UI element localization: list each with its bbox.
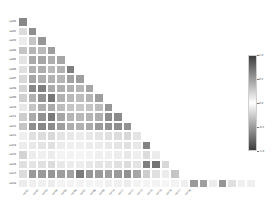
heatmap-row — [18, 84, 189, 94]
heatmap-cell — [151, 150, 161, 160]
heatmap-cell — [104, 179, 114, 189]
x-tick-label: var02 — [30, 189, 39, 198]
heatmap-cell — [28, 150, 38, 160]
heatmap-cell — [66, 65, 76, 75]
x-tick-label: var01 — [20, 189, 29, 198]
x-tick-label: var07 — [77, 189, 86, 198]
heatmap-cell — [170, 169, 180, 179]
heatmap-cell — [123, 122, 133, 132]
heatmap-cell — [85, 169, 95, 179]
heatmap-cell — [56, 84, 66, 94]
heatmap-cell — [151, 169, 161, 179]
heatmap-cell — [66, 141, 76, 151]
heatmap-cell — [123, 150, 133, 160]
heatmap-cell — [142, 179, 152, 189]
correlation-heatmap-figure: var01var02var03var04var05var06var07var08… — [0, 0, 279, 204]
heatmap-row — [18, 27, 189, 37]
heatmap-cell — [47, 103, 57, 113]
heatmap-cell — [66, 160, 76, 170]
heatmap-cell — [151, 179, 161, 189]
heatmap-cell — [37, 103, 47, 113]
heatmap-cell — [113, 160, 123, 170]
colorbar-tick-label: 1.0 — [259, 54, 263, 57]
heatmap-cell — [28, 84, 38, 94]
heatmap-cell — [94, 93, 104, 103]
heatmap-cell — [75, 160, 85, 170]
y-tick-label: var15 — [9, 150, 16, 160]
heatmap-cell — [94, 169, 104, 179]
heatmap-cell — [18, 103, 28, 113]
heatmap-cell — [18, 179, 28, 189]
heatmap-cell — [66, 131, 76, 141]
heatmap-cell — [66, 84, 76, 94]
heatmap-cell — [199, 179, 209, 189]
heatmap-cell — [85, 179, 95, 189]
y-tick-label: var01 — [9, 17, 16, 27]
heatmap-cell — [142, 169, 152, 179]
colorbar-tick-label: -0.5 — [259, 126, 264, 129]
heatmap-cell — [104, 169, 114, 179]
heatmap-cell — [18, 160, 28, 170]
heatmap-cell — [56, 160, 66, 170]
colorbar-gradient — [248, 55, 257, 151]
heatmap-cell — [28, 160, 38, 170]
x-tick-label: var13 — [134, 189, 143, 198]
heatmap-cell — [28, 141, 38, 151]
heatmap-cell — [113, 141, 123, 151]
y-tick-label: var02 — [9, 27, 16, 37]
heatmap-cell — [142, 160, 152, 170]
heatmap-cell — [132, 160, 142, 170]
heatmap-cell — [56, 112, 66, 122]
heatmap-cell — [37, 179, 47, 189]
heatmap-cell — [28, 112, 38, 122]
heatmap-cell — [28, 122, 38, 132]
heatmap-cell — [37, 84, 47, 94]
heatmap-cell — [104, 150, 114, 160]
heatmap-cell — [75, 150, 85, 160]
x-tick-label: var12 — [125, 189, 134, 198]
heatmap-cell — [18, 74, 28, 84]
heatmap-row — [18, 179, 189, 189]
heatmap-cell — [208, 179, 218, 189]
heatmap-cell — [18, 27, 28, 37]
heatmap-cell — [56, 93, 66, 103]
heatmap-cell — [56, 179, 66, 189]
heatmap-cell — [18, 36, 28, 46]
heatmap-cell — [75, 141, 85, 151]
heatmap-cell — [47, 65, 57, 75]
heatmap-cell — [37, 122, 47, 132]
heatmap-cell — [94, 150, 104, 160]
heatmap-row — [18, 55, 189, 65]
heatmap-cell — [28, 169, 38, 179]
heatmap-cell — [94, 141, 104, 151]
heatmap-cell — [189, 179, 199, 189]
heatmap-cell — [123, 160, 133, 170]
heatmap-cell — [47, 131, 57, 141]
x-tick-label: var11 — [115, 189, 124, 198]
heatmap-cell — [28, 93, 38, 103]
heatmap-cell — [18, 150, 28, 160]
y-tick-label: var10 — [9, 103, 16, 113]
y-tick-label: var06 — [9, 65, 16, 75]
heatmap-cell — [132, 150, 142, 160]
y-tick-label: var13 — [9, 131, 16, 141]
heatmap-cell — [104, 160, 114, 170]
heatmap-cell — [56, 169, 66, 179]
heatmap-cell — [94, 112, 104, 122]
heatmap-cell — [142, 141, 152, 151]
heatmap-cell — [123, 179, 133, 189]
heatmap-cell — [66, 179, 76, 189]
heatmap-cell — [246, 179, 256, 189]
x-tick-label: var10 — [106, 189, 115, 198]
heatmap-cell — [37, 65, 47, 75]
heatmap-cell — [113, 122, 123, 132]
heatmap-row — [18, 150, 189, 160]
y-tick-label: var04 — [9, 46, 16, 56]
heatmap-row — [18, 17, 189, 27]
heatmap-cell — [56, 122, 66, 132]
heatmap-cell — [123, 141, 133, 151]
heatmap-cell — [37, 112, 47, 122]
heatmap-cell — [237, 179, 247, 189]
heatmap-row — [18, 103, 189, 113]
heatmap-cell — [85, 160, 95, 170]
